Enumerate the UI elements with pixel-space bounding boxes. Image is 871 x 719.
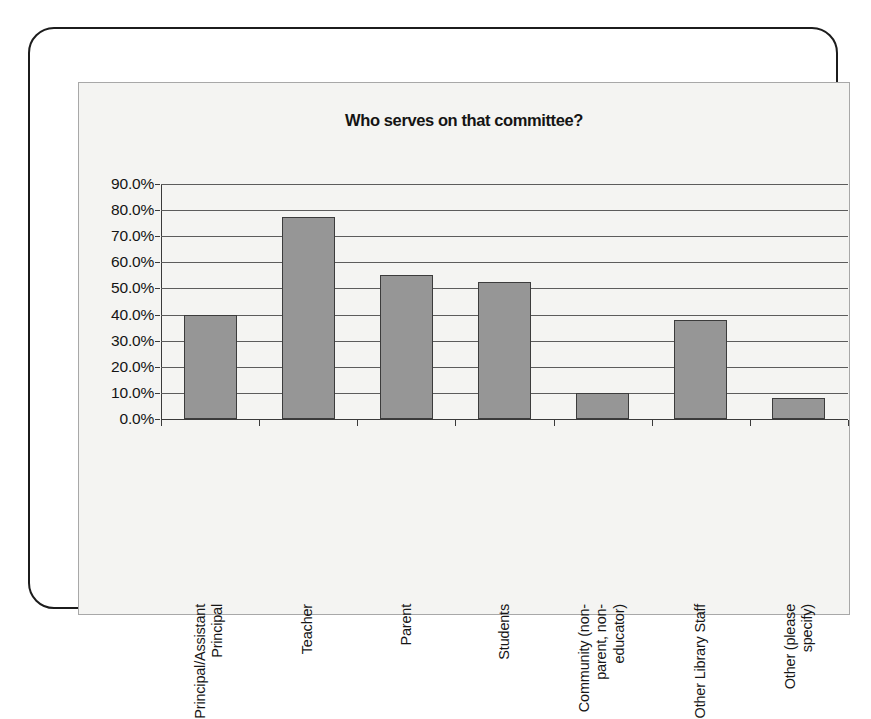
bar bbox=[674, 320, 727, 419]
y-tick-mark bbox=[155, 419, 160, 420]
bar bbox=[478, 282, 531, 419]
x-tick-mark bbox=[848, 420, 849, 426]
y-tick-mark bbox=[155, 184, 160, 185]
gridline bbox=[161, 184, 848, 185]
y-tick-mark bbox=[155, 210, 160, 211]
y-tick-label: 60.0% bbox=[111, 253, 154, 271]
y-tick-label: 80.0% bbox=[111, 201, 154, 219]
x-category-label-line: Teacher bbox=[300, 604, 317, 654]
y-tick-mark bbox=[155, 341, 160, 342]
chart-outer-frame: Who serves on that committee? 90.0%80.0%… bbox=[28, 27, 838, 609]
y-tick-mark bbox=[155, 262, 160, 263]
y-tick-label: 40.0% bbox=[111, 306, 154, 324]
y-tick-label: 20.0% bbox=[111, 358, 154, 376]
y-tick-label: 10.0% bbox=[111, 384, 154, 402]
x-category-label-line: Community (non- bbox=[577, 604, 594, 712]
gridline bbox=[161, 262, 848, 263]
y-axis-labels: 90.0%80.0%70.0%60.0%50.0%40.0%30.0%20.0%… bbox=[82, 184, 154, 419]
y-tick-mark bbox=[155, 288, 160, 289]
y-tick-label: 0.0% bbox=[119, 410, 154, 428]
y-tick-mark bbox=[155, 315, 160, 316]
x-category-label-line: parent, non- bbox=[594, 604, 611, 712]
x-category-label-line: Other Library Staff bbox=[692, 604, 709, 718]
bar bbox=[772, 398, 825, 419]
x-category-label-line: Other (please bbox=[782, 604, 799, 689]
x-category-label-line: Parent bbox=[398, 604, 415, 646]
bar bbox=[576, 393, 629, 419]
gridline bbox=[161, 210, 848, 211]
gridline bbox=[161, 236, 848, 237]
x-category-label-line: specify) bbox=[799, 604, 816, 689]
chart-title: Who serves on that committee? bbox=[79, 111, 849, 130]
bar bbox=[380, 275, 433, 419]
plot-area bbox=[161, 184, 848, 419]
y-tick-mark bbox=[155, 367, 160, 368]
y-tick-label: 70.0% bbox=[111, 227, 154, 245]
y-tick-label: 30.0% bbox=[111, 332, 154, 350]
bar bbox=[282, 217, 335, 419]
x-category-label-line: Students bbox=[496, 604, 513, 660]
y-tick-label: 90.0% bbox=[111, 175, 154, 193]
gridline bbox=[161, 419, 848, 420]
y-tick-mark bbox=[155, 236, 160, 237]
x-axis-labels: Principal/AssistantPrincipalTeacherParen… bbox=[161, 426, 848, 606]
y-tick-mark bbox=[155, 393, 160, 394]
x-category-label-line: Principal bbox=[210, 604, 227, 719]
bar bbox=[184, 315, 237, 419]
x-category-label-line: Principal/Assistant bbox=[193, 604, 210, 719]
y-tick-label: 50.0% bbox=[111, 279, 154, 297]
x-category-label-line: educator) bbox=[611, 604, 628, 712]
